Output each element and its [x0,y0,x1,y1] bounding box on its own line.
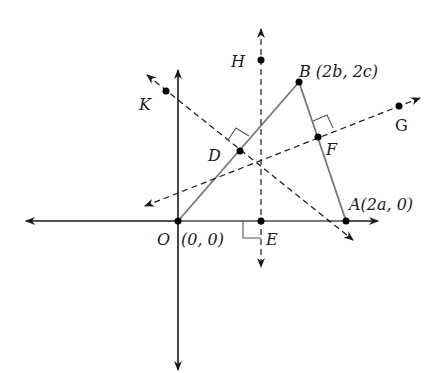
label-F: F [325,140,338,159]
right-angle-F [313,115,333,128]
point-K [163,88,170,95]
label-D: D [207,146,221,165]
label-E: E [265,230,278,249]
point-F [315,134,322,141]
side-BA [299,82,346,221]
diagram-canvas: O (0, 0) A(2a, 0) B (2b, 2c) D E F G H K [0,0,443,373]
label-K: K [138,95,152,114]
geometry-diagram: O (0, 0) A(2a, 0) B (2b, 2c) D E F G H K [0,0,443,373]
point-A [343,218,350,225]
label-G: G [395,116,408,135]
label-A: A(2a, 0) [347,195,413,214]
right-angle-E [243,221,261,238]
bisector-FG [145,98,420,206]
point-H [258,57,265,64]
label-O: O [157,230,170,249]
label-B: B (2b, 2c) [298,62,378,81]
point-G [396,103,403,110]
right-angle-D [228,128,249,140]
point-D [237,148,244,155]
label-H: H [230,52,246,71]
point-E [258,218,265,225]
point-O [175,218,182,225]
label-O-coord: (0, 0) [181,230,224,249]
